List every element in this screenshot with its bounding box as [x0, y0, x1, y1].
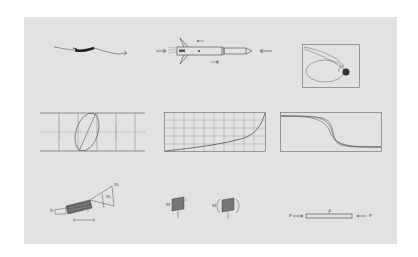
axially-loaded-bar: P L P — [289, 209, 389, 223]
vector-label-n: N — [50, 208, 54, 213]
bar-length-label: L — [329, 208, 332, 213]
sigmoid-family — [280, 112, 382, 152]
ellipse-oscilloscope — [40, 112, 145, 152]
moment-label-b: M — [212, 203, 216, 208]
bar-diagram: P L P — [289, 209, 389, 223]
figure-panel: N N₁ N₂ M M P L P — [24, 17, 397, 244]
curve-grid-plot — [164, 112, 266, 152]
force-diagram: N N₁ N₂ — [50, 180, 122, 230]
plate-bending-moments: M M — [164, 195, 264, 225]
orbit-trajectory — [302, 44, 360, 88]
rocket-icon — [154, 33, 284, 69]
vector-label-n1: N₁ — [106, 194, 112, 199]
exponential-curve-grid — [164, 112, 266, 152]
orbit-diagram — [302, 44, 360, 88]
moment-label-a: M — [166, 202, 170, 207]
sigmoid-plot — [280, 112, 382, 152]
aircraft-icon — [54, 39, 134, 57]
load-label-left: P — [289, 213, 292, 218]
load-label-right: P — [369, 213, 372, 218]
vector-label-n2: N₂ — [114, 182, 120, 187]
ellipse-plot — [40, 112, 145, 152]
planet-icon — [343, 69, 350, 76]
aircraft-flight-path — [54, 39, 134, 57]
force-vector-diagram: N N₁ N₂ — [50, 180, 122, 230]
plate-elements: M M — [164, 195, 264, 225]
rocket-under-compression — [154, 33, 284, 69]
